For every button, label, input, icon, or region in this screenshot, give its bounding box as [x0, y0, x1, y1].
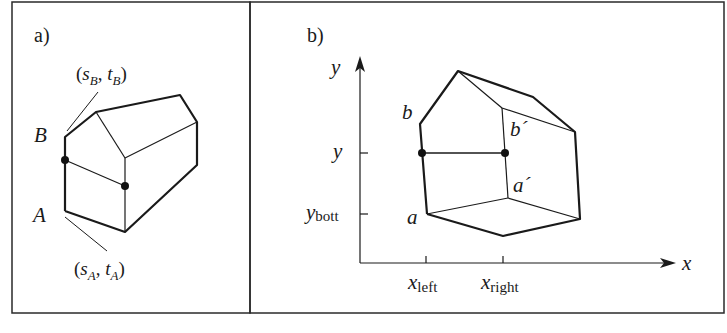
leader-line-b	[67, 92, 98, 131]
vertex-b-label: b	[402, 100, 413, 124]
point-b-label: B	[34, 123, 47, 147]
y-tick-label: y	[331, 139, 343, 163]
panel-a-frame	[12, 2, 250, 313]
coord-b-label: (sB, tB)	[76, 63, 127, 88]
panel-b-frame	[250, 2, 724, 313]
y-bott-label: ybott	[304, 200, 339, 224]
figure: a) (sB, tB) B A (sA, tA) b)	[0, 0, 727, 333]
coord-a-label: (sA, tA)	[74, 258, 125, 283]
intersection-dot-right	[121, 182, 129, 190]
x-left-label: xleft	[407, 270, 438, 295]
scanline-dot-right	[501, 149, 509, 157]
point-a-label: A	[31, 203, 46, 227]
vertex-b-prime-label: b´	[510, 117, 529, 141]
house-3d	[65, 95, 197, 232]
y-axis-label: y	[329, 55, 341, 79]
panel-a: a) (sB, tB) B A (sA, tA)	[31, 24, 197, 283]
house-projected	[420, 71, 580, 236]
x-right-label: xright	[480, 270, 519, 295]
intersection-dot-left	[61, 156, 69, 164]
panel-b: b) y x y ybott xleft xright	[304, 24, 692, 295]
panel-a-label: a)	[34, 24, 50, 47]
x-axis-label: x	[681, 251, 692, 275]
leader-line-a	[65, 217, 107, 251]
panel-b-label: b)	[307, 24, 324, 47]
vertex-a-label: a	[407, 205, 418, 229]
scanline-dot-left	[418, 149, 426, 157]
vertex-a-prime-label: a´	[513, 173, 532, 197]
